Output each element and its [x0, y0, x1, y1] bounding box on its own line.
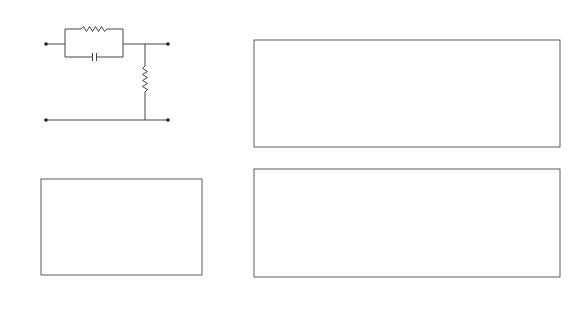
bode-diagram [0, 0, 560, 277]
terminal-input-plus [44, 42, 48, 46]
circuit-terminals [44, 42, 170, 122]
resistor-r1 [81, 27, 107, 32]
figure-canvas [0, 0, 576, 330]
terminal-output-plus [166, 42, 170, 46]
resistor-r2 [143, 66, 148, 92]
polar-axes-frame [41, 179, 202, 275]
terminal-input-minus [44, 118, 48, 122]
magnitude-axes-frame [254, 40, 560, 147]
polar-plot [0, 0, 202, 275]
lead-network-circuit [46, 27, 168, 121]
phase-axes-frame [254, 169, 560, 277]
terminal-output-minus [166, 118, 170, 122]
